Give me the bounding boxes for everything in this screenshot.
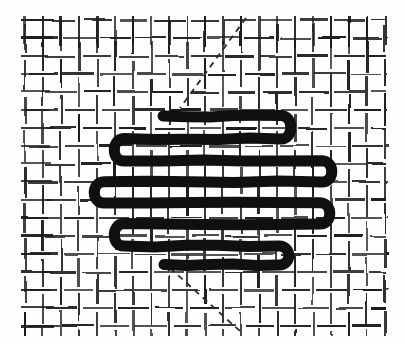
weave-dash-horizontal: [155, 56, 184, 57]
weave-dash-horizontal: [370, 236, 386, 237]
weave-dash-horizontal: [281, 110, 308, 111]
weave-dash-vertical: [295, 294, 296, 324]
weave-dash-vertical: [278, 311, 279, 336]
weave-dash-vertical: [169, 312, 170, 336]
woven-texture-figure: Woven dash texture with bold serpentine …: [0, 0, 406, 345]
figure-root: Woven dash texture with bold serpentine …: [0, 0, 406, 345]
weave-dash-horizontal: [83, 128, 112, 129]
weave-dash-vertical: [133, 276, 134, 305]
weave-dash-vertical: [60, 166, 61, 197]
weave-dash-horizontal: [246, 326, 274, 327]
weave-dash-horizontal: [316, 290, 348, 291]
weave-dash-vertical: [97, 131, 98, 161]
weave-dash-horizontal: [156, 307, 184, 308]
weave-dash-horizontal: [65, 254, 95, 255]
weave-dash-horizontal: [316, 254, 346, 255]
weave-dash-horizontal: [225, 307, 255, 308]
weave-dash-horizontal: [371, 128, 386, 129]
weave-dash-horizontal: [119, 128, 146, 129]
weave-dash-horizontal: [173, 38, 202, 39]
weave-dash-horizontal: [170, 146, 202, 147]
weave-dash-vertical: [78, 186, 79, 215]
weave-dash-horizontal: [209, 218, 238, 219]
weave-dash-vertical: [295, 329, 296, 336]
weave-dash-vertical: [385, 167, 386, 199]
weave-dash-vertical: [79, 77, 80, 107]
weave-dash-vertical: [62, 239, 63, 271]
weave-dash-horizontal: [45, 236, 75, 237]
weave-dash-vertical: [79, 149, 80, 178]
weave-dash-horizontal: [225, 236, 258, 237]
